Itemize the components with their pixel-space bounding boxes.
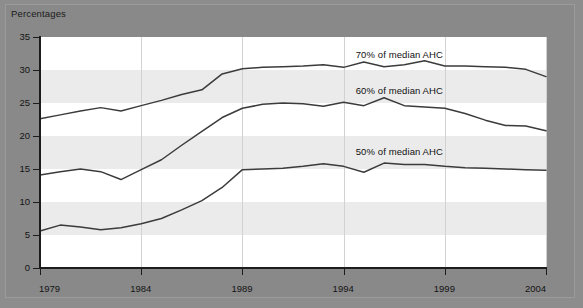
y-tick-20 xyxy=(33,136,40,137)
y-tick-label-20: 20 xyxy=(8,131,30,141)
x-tick-label-1999: 1999 xyxy=(434,284,455,294)
series-label-3: 50% of median AHC xyxy=(356,146,443,157)
y-tick-label-5: 5 xyxy=(8,230,30,240)
y-tick-label-0: 0 xyxy=(8,263,30,273)
x-tick-label-2004: 2004 xyxy=(525,284,546,294)
series-lines xyxy=(40,37,546,268)
y-tick-label-10: 10 xyxy=(8,197,30,207)
y-tick-15 xyxy=(33,169,40,170)
y-tick-label-15: 15 xyxy=(8,164,30,174)
x-tick-label-1979: 1979 xyxy=(39,284,60,294)
x-axis-line xyxy=(39,267,547,269)
x-tick-label-1989: 1989 xyxy=(231,284,252,294)
x-tick-1994 xyxy=(344,269,345,275)
x-tick-label-1994: 1994 xyxy=(333,284,354,294)
y-tick-30 xyxy=(33,70,40,71)
y-tick-label-30: 30 xyxy=(8,65,30,75)
x-tick-1999 xyxy=(445,269,446,275)
y-tick-10 xyxy=(33,202,40,203)
y-tick-25 xyxy=(33,103,40,104)
series-line-3 xyxy=(40,163,546,231)
series-label-1: 70% of median AHC xyxy=(356,49,443,60)
series-line-1 xyxy=(40,61,546,119)
y-tick-35 xyxy=(33,37,40,38)
x-tick-1979 xyxy=(40,269,41,275)
y-tick-label-25: 25 xyxy=(8,98,30,108)
chart-figure: Percentages 05101520253035 1979198419891… xyxy=(0,0,583,308)
gridline-2004 xyxy=(546,37,547,268)
x-tick-1989 xyxy=(242,269,243,275)
x-tick-2004 xyxy=(546,269,547,275)
series-label-2: 60% of median AHC xyxy=(356,85,443,96)
plot-area xyxy=(40,37,546,268)
y-tick-5 xyxy=(33,235,40,236)
x-tick-1984 xyxy=(141,269,142,275)
y-tick-0 xyxy=(33,268,40,269)
x-tick-label-1984: 1984 xyxy=(130,284,151,294)
y-axis-title: Percentages xyxy=(11,8,66,19)
y-tick-label-35: 35 xyxy=(8,32,30,42)
